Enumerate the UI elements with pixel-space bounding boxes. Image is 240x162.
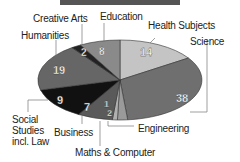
label-education: Education	[100, 12, 143, 22]
value-health: 14	[140, 46, 153, 58]
value-science: 38	[176, 92, 188, 104]
label-maths-computer: Maths & Computer	[75, 148, 155, 158]
value-maths: 1	[104, 99, 109, 109]
label-social-2: Studies	[12, 126, 44, 136]
label-humanities: Humanities	[21, 31, 69, 41]
value-education: 8	[99, 46, 105, 57]
label-engineering: Engineering	[138, 124, 189, 134]
label-social-1: Social	[12, 115, 38, 125]
value-social: 9	[57, 94, 63, 106]
label-business: Business	[54, 128, 93, 138]
value-humanities: 19	[53, 64, 65, 76]
label-science: Science	[190, 37, 224, 47]
value-business: 7	[84, 101, 90, 113]
label-creative-arts: Creative Arts	[33, 14, 88, 24]
value-engineering: 2	[107, 108, 112, 118]
label-health-subjects: Health Subjects	[148, 21, 215, 31]
value-creative: 2	[81, 47, 87, 58]
label-social-3: incl. Law	[12, 137, 49, 147]
